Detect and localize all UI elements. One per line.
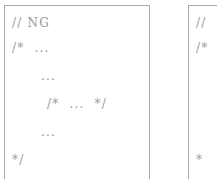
code-panel-right: // /* * — [188, 5, 217, 179]
code-line: ... — [5, 126, 56, 139]
code-lines-left: // NG /* ... ... /* ... */ ... */ — [5, 6, 149, 179]
code-line: /* ... */ — [5, 98, 107, 111]
code-line: // — [189, 17, 207, 30]
code-line: /* — [189, 42, 208, 55]
code-line: ... — [5, 70, 56, 83]
code-line: * — [189, 154, 203, 167]
code-line: */ — [5, 154, 24, 167]
code-line: /* ... — [5, 42, 50, 55]
code-panel-left: // NG /* ... ... /* ... */ ... */ — [4, 5, 150, 179]
code-lines-right: // /* * — [189, 6, 217, 179]
code-comment-figure: // NG /* ... ... /* ... */ ... */ // /* … — [0, 0, 217, 179]
code-line: // NG — [5, 17, 50, 30]
